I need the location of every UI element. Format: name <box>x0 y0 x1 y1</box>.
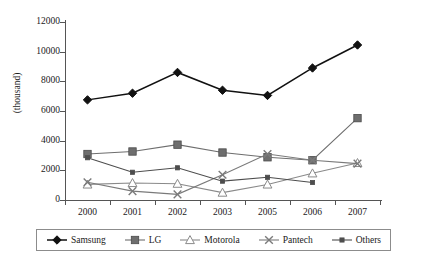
y-tick-mark <box>60 81 65 82</box>
series-lg <box>84 114 361 164</box>
y-tick-label: 8000 <box>20 76 60 86</box>
data-point-marker <box>129 148 136 155</box>
small-square-marker-icon <box>331 234 353 246</box>
data-point-marker <box>128 89 136 97</box>
x-tick-mark <box>290 200 291 205</box>
data-point-marker <box>174 191 182 199</box>
legend-item-lg[interactable]: LG <box>124 234 162 246</box>
diamond-marker-icon <box>46 234 68 246</box>
x-marker-icon <box>258 234 280 246</box>
series-line <box>88 163 358 193</box>
legend-label: Motorola <box>204 235 239 245</box>
data-point-marker <box>219 171 227 179</box>
legend-label: LG <box>149 235 162 245</box>
legend-label: Pantech <box>283 235 313 245</box>
data-point-marker <box>175 166 179 170</box>
y-tick-label: 10000 <box>20 47 60 57</box>
x-tick-mark <box>155 200 156 205</box>
legend-item-motorola[interactable]: Motorola <box>179 234 239 246</box>
y-tick-label: 6000 <box>20 106 60 116</box>
data-point-marker <box>174 141 181 148</box>
x-tick-label: 2002 <box>155 206 201 218</box>
y-axis-line <box>65 20 66 201</box>
data-point-marker <box>129 187 137 195</box>
y-tick-label: 12000 <box>20 17 60 27</box>
legend-label: Samsung <box>71 235 106 245</box>
x-tick-mark <box>200 200 201 205</box>
chart-figure: (thousand) 020004000600080001000012000 2… <box>0 0 430 265</box>
y-tick-label: 0 <box>20 195 60 205</box>
data-point-marker <box>264 150 272 158</box>
series-pantech <box>84 150 362 198</box>
series-line <box>88 118 358 160</box>
x-tick-label: 2006 <box>290 206 336 218</box>
x-tick-mark <box>245 200 246 205</box>
series-line <box>88 158 313 183</box>
y-tick-mark <box>60 52 65 53</box>
legend-label: Others <box>356 235 381 245</box>
y-tick-mark <box>60 111 65 112</box>
data-point-marker <box>354 160 362 168</box>
y-tick-label: 4000 <box>20 136 60 146</box>
x-tick-label: 2000 <box>65 206 111 218</box>
data-point-marker <box>308 169 317 177</box>
data-point-marker <box>173 179 182 187</box>
data-point-marker <box>130 170 134 174</box>
data-point-marker <box>309 156 317 164</box>
data-point-marker <box>218 188 227 196</box>
data-point-marker <box>309 157 316 164</box>
series-others <box>85 156 314 185</box>
data-point-marker <box>354 114 361 121</box>
data-point-marker <box>353 41 361 49</box>
data-point-marker <box>220 179 224 183</box>
y-tick-mark <box>60 170 65 171</box>
series-line <box>88 45 358 100</box>
x-tick-label: 2007 <box>335 206 381 218</box>
data-point-marker <box>83 96 91 104</box>
y-tick-mark <box>60 22 65 23</box>
y-tick-label: 2000 <box>20 165 60 175</box>
chart-legend: SamsungLGMotorolaPantechOthers <box>36 229 391 251</box>
x-tick-label: 2001 <box>110 206 156 218</box>
data-point-marker <box>263 180 272 188</box>
data-point-marker <box>265 175 269 179</box>
x-tick-mark <box>110 200 111 205</box>
data-point-marker <box>308 64 316 72</box>
data-point-marker <box>84 150 91 157</box>
data-point-marker <box>263 91 271 99</box>
series-samsung <box>83 41 361 104</box>
series-line <box>88 154 358 194</box>
data-point-marker <box>218 86 226 94</box>
data-point-marker <box>128 179 137 187</box>
data-point-marker <box>85 156 89 160</box>
y-axis-label: (thousand) <box>12 48 22 138</box>
y-tick-mark <box>60 141 65 142</box>
square-marker-icon <box>124 234 146 246</box>
series-motorola <box>83 159 362 197</box>
x-tick-label: 2005 <box>245 206 291 218</box>
x-tick-label: 2003 <box>200 206 246 218</box>
data-point-marker <box>353 159 362 167</box>
legend-item-samsung[interactable]: Samsung <box>46 234 106 246</box>
x-tick-mark <box>335 200 336 205</box>
legend-item-others[interactable]: Others <box>331 234 381 246</box>
x-tick-mark <box>380 200 381 205</box>
triangle-marker-icon <box>179 234 201 246</box>
x-tick-mark <box>65 200 66 205</box>
data-point-marker <box>173 68 181 76</box>
legend-item-pantech[interactable]: Pantech <box>258 234 313 246</box>
data-point-marker <box>310 180 314 184</box>
data-point-marker <box>83 180 92 188</box>
data-point-marker <box>264 154 271 161</box>
data-point-marker <box>219 149 226 156</box>
data-point-marker <box>84 178 92 186</box>
